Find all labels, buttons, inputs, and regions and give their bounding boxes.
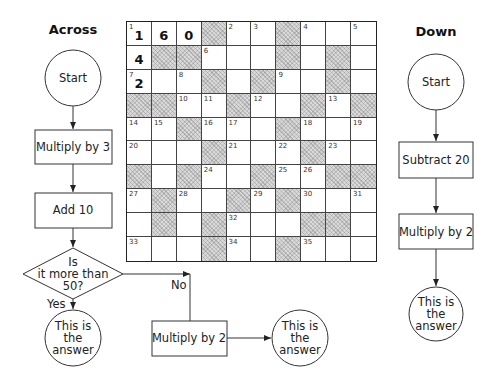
grid-cell[interactable]: 30 xyxy=(301,189,326,213)
grid-cell[interactable]: 15 xyxy=(152,118,177,142)
grid-cell[interactable]: 4 xyxy=(127,46,152,70)
grid-cell[interactable] xyxy=(301,70,326,94)
grid-cell[interactable]: 16 xyxy=(202,118,227,142)
grid-cell[interactable] xyxy=(301,46,326,70)
clue-number: 32 xyxy=(229,214,238,222)
grid-cell[interactable] xyxy=(152,237,177,261)
grid-cell-shaded xyxy=(177,118,202,142)
grid-cell-shaded xyxy=(202,70,227,94)
grid-cell[interactable] xyxy=(326,22,351,46)
grid-cell[interactable] xyxy=(326,189,351,213)
grid-cell[interactable]: 27 xyxy=(127,189,152,213)
grid-cell[interactable] xyxy=(251,237,276,261)
clue-number: 28 xyxy=(179,190,188,198)
across-start-label: Start xyxy=(59,72,87,85)
grid-cell[interactable] xyxy=(351,70,376,94)
grid-cell[interactable] xyxy=(351,141,376,165)
cell-answer-digit: 4 xyxy=(127,52,151,67)
grid-cell[interactable]: 32 xyxy=(227,213,252,237)
cell-answer-digit: 2 xyxy=(127,76,151,91)
grid-cell[interactable] xyxy=(227,46,252,70)
grid-cell-shaded xyxy=(127,94,152,118)
grid-cell[interactable] xyxy=(251,118,276,142)
grid-cell[interactable] xyxy=(227,165,252,189)
clue-number: 18 xyxy=(303,119,312,127)
grid-cell[interactable]: 3 xyxy=(251,22,276,46)
clue-number: 4 xyxy=(303,23,307,31)
grid-cell[interactable]: 10 xyxy=(177,94,202,118)
grid-cell[interactable] xyxy=(177,213,202,237)
grid-cell[interactable]: 6 xyxy=(152,22,177,46)
grid-cell[interactable]: 12 xyxy=(251,94,276,118)
grid-cell[interactable] xyxy=(251,141,276,165)
grid-cell[interactable] xyxy=(351,46,376,70)
grid-cell[interactable]: 24 xyxy=(202,165,227,189)
grid-cell[interactable]: 11 xyxy=(127,22,152,46)
grid-cell-shaded xyxy=(227,94,252,118)
grid-cell-shaded xyxy=(276,189,301,213)
grid-cell[interactable] xyxy=(326,237,351,261)
grid-cell[interactable] xyxy=(351,213,376,237)
grid-cell[interactable]: 25 xyxy=(276,165,301,189)
down-step2-label: Multiply by 2 xyxy=(399,226,473,239)
grid-cell[interactable]: 29 xyxy=(251,189,276,213)
grid-cell[interactable]: 2 xyxy=(227,22,252,46)
grid-cell[interactable]: 19 xyxy=(351,118,376,142)
grid-cell[interactable]: 26 xyxy=(301,165,326,189)
grid-cell[interactable]: 18 xyxy=(301,118,326,142)
grid-cell[interactable]: 8 xyxy=(177,70,202,94)
grid-cell[interactable] xyxy=(251,213,276,237)
clue-number: 30 xyxy=(303,190,312,198)
grid-cell-shaded xyxy=(326,213,351,237)
grid-cell-shaded xyxy=(276,22,301,46)
grid-cell[interactable]: 72 xyxy=(127,70,152,94)
grid-cell[interactable] xyxy=(251,46,276,70)
cell-answer-digit: 6 xyxy=(152,28,176,43)
grid-cell[interactable]: 35 xyxy=(301,237,326,261)
clue-number: 9 xyxy=(278,71,282,79)
grid-cell[interactable]: 14 xyxy=(127,118,152,142)
clue-number: 31 xyxy=(353,190,362,198)
clue-number: 14 xyxy=(129,119,138,127)
grid-cell[interactable]: 4 xyxy=(301,22,326,46)
grid-cell[interactable] xyxy=(152,165,177,189)
clue-number: 34 xyxy=(229,238,238,246)
grid-cell[interactable]: 13 xyxy=(326,94,351,118)
grid-cell-shaded xyxy=(351,94,376,118)
grid-cell[interactable]: 6 xyxy=(202,46,227,70)
grid-cell[interactable] xyxy=(351,237,376,261)
grid-cell-shaded xyxy=(276,46,301,70)
grid-cell[interactable] xyxy=(276,94,301,118)
clue-number: 33 xyxy=(129,238,138,246)
no-answer-line3: answer xyxy=(279,344,321,357)
clue-number: 21 xyxy=(229,142,238,150)
grid-cell[interactable]: 23 xyxy=(326,141,351,165)
clue-number: 17 xyxy=(229,119,238,127)
grid-cell[interactable] xyxy=(177,237,202,261)
crossword-grid: 1160234546728910111213141516171819202122… xyxy=(126,21,377,262)
grid-cell[interactable] xyxy=(152,70,177,94)
grid-cell[interactable] xyxy=(227,70,252,94)
grid-cell-shaded xyxy=(301,213,326,237)
grid-cell-shaded xyxy=(152,46,177,70)
grid-cell[interactable]: 22 xyxy=(276,141,301,165)
clue-number: 26 xyxy=(303,166,312,174)
grid-cell[interactable]: 20 xyxy=(127,141,152,165)
grid-cell[interactable]: 28 xyxy=(177,189,202,213)
grid-cell[interactable]: 17 xyxy=(227,118,252,142)
grid-cell[interactable] xyxy=(127,213,152,237)
grid-cell[interactable]: 9 xyxy=(276,70,301,94)
grid-cell[interactable]: 21 xyxy=(227,141,252,165)
grid-cell[interactable]: 11 xyxy=(202,94,227,118)
grid-cell[interactable] xyxy=(177,141,202,165)
grid-cell[interactable]: 0 xyxy=(177,22,202,46)
grid-cell[interactable]: 33 xyxy=(127,237,152,261)
grid-cell[interactable] xyxy=(326,118,351,142)
grid-cell[interactable] xyxy=(152,141,177,165)
grid-cell[interactable] xyxy=(276,213,301,237)
grid-cell[interactable]: 31 xyxy=(351,189,376,213)
grid-cell[interactable] xyxy=(202,189,227,213)
grid-cell[interactable]: 34 xyxy=(227,237,252,261)
grid-cell[interactable]: 5 xyxy=(351,22,376,46)
grid-cell-shaded xyxy=(326,165,351,189)
